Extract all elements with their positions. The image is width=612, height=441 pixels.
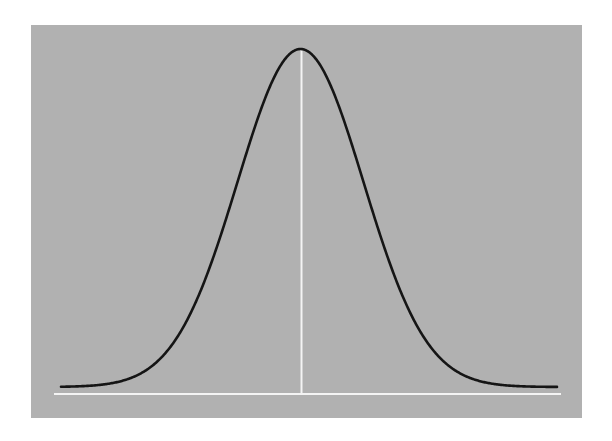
normal-distribution-curve (61, 49, 557, 387)
bell-curve-chart (0, 0, 612, 441)
